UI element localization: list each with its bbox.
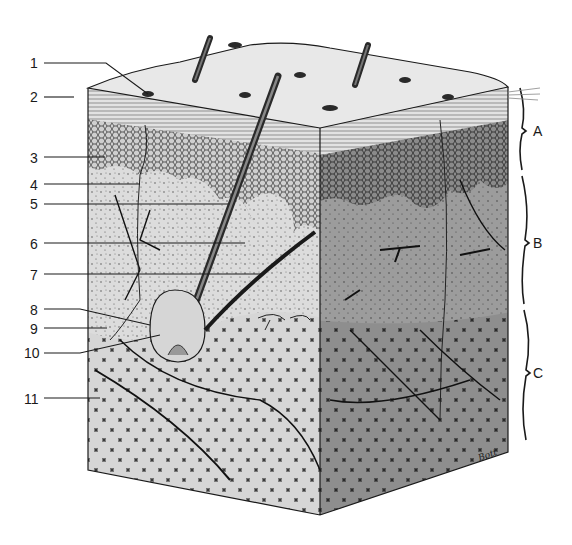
bracket-b [522, 176, 529, 304]
label-1: 1 [30, 56, 38, 70]
label-5: 5 [30, 197, 38, 211]
bracket-a [520, 88, 526, 170]
surface-hairs [508, 88, 540, 100]
label-b: B [533, 236, 542, 250]
bracket-c [523, 310, 530, 440]
label-2: 2 [30, 90, 38, 104]
label-11: 11 [24, 392, 39, 406]
label-6: 6 [30, 237, 38, 251]
label-4: 4 [30, 178, 38, 192]
label-10: 10 [24, 346, 40, 360]
label-9: 9 [30, 322, 38, 336]
label-8: 8 [30, 303, 38, 317]
label-3: 3 [30, 151, 38, 165]
left-face [80, 80, 330, 520]
skin-block-illustration [0, 0, 572, 545]
label-7: 7 [30, 268, 38, 282]
label-c: C [533, 366, 543, 380]
layer-brackets [520, 88, 530, 440]
label-a: A [533, 124, 542, 138]
